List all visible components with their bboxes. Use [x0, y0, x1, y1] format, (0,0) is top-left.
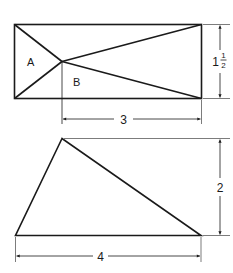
rectangle-outline [15, 25, 202, 99]
height-whole-number: 1 [212, 55, 219, 69]
region-label-b: B [73, 76, 80, 88]
rectangle-figure: A B 3 1 1 2 [15, 25, 231, 127]
line-top-right-to-point [62, 25, 202, 62]
height-dimension-label: 1 1 2 [212, 51, 226, 70]
height-fraction-numerator: 1 [221, 51, 226, 60]
triangle-base-label: 4 [97, 250, 104, 264]
triangle-height-label: 2 [217, 181, 224, 195]
width-dimension-label: 3 [120, 113, 127, 127]
triangle-figure: 2 4 [16, 139, 231, 264]
region-label-a: A [27, 56, 35, 68]
line-bottom-right-to-point [62, 62, 202, 99]
height-fraction-denominator: 2 [221, 61, 226, 70]
triangle-outline [16, 139, 202, 236]
geometry-diagram: A B 3 1 1 2 2 4 [0, 0, 233, 273]
line-top-left-to-point [15, 25, 63, 62]
line-bottom-left-to-point [15, 62, 63, 99]
